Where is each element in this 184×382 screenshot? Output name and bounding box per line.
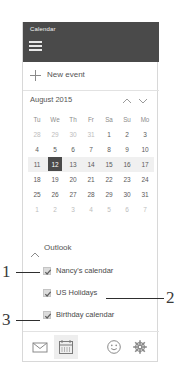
calendar-day-number: 30 <box>123 191 130 198</box>
calendar-day[interactable]: 7 <box>82 142 100 157</box>
calendar-day[interactable]: 14 <box>82 157 100 172</box>
new-event-button[interactable]: New event <box>23 62 159 90</box>
calendar-day-number: 8 <box>107 146 111 153</box>
calendar-day[interactable]: 3 <box>136 127 154 142</box>
calendar-day-number: 21 <box>87 176 94 183</box>
calendar-day-number: 31 <box>141 191 148 198</box>
day-of-week-label: Mo <box>136 112 154 127</box>
outlook-group-label: Outlook <box>44 243 72 252</box>
bottom-toolbar <box>23 331 159 361</box>
title-bar: Calendar <box>23 22 159 62</box>
day-of-week-label: Tu <box>28 112 46 127</box>
annotation-leader-line-3 <box>16 320 40 321</box>
calendar-day[interactable]: 29 <box>46 127 64 142</box>
calendar-day[interactable]: 8 <box>100 142 118 157</box>
calendar-day-number: 11 <box>34 161 41 168</box>
gear-icon[interactable] <box>128 335 152 359</box>
calendar-day[interactable]: 11 <box>28 157 46 172</box>
calendar-day[interactable]: 9 <box>118 142 136 157</box>
calendar-name-label: Nancy's calendar <box>56 266 113 275</box>
smiley-face-icon[interactable] <box>102 335 126 359</box>
calendar-day-number: 20 <box>69 176 76 183</box>
calendar-day[interactable]: 27 <box>64 187 82 202</box>
calendar-day-number: 12 <box>51 161 58 168</box>
chevron-up-icon <box>30 245 40 253</box>
calendar-day[interactable]: 2 <box>118 127 136 142</box>
calendar-day[interactable]: 26 <box>46 187 64 202</box>
calendar-day-number: 5 <box>107 206 111 213</box>
calendar-day[interactable]: 21 <box>82 172 100 187</box>
calendar-day[interactable]: 23 <box>118 172 136 187</box>
calendar-day-number: 27 <box>69 191 76 198</box>
calendar-day-number: 9 <box>125 146 129 153</box>
calendar-list-item[interactable]: US Holidays <box>23 284 159 306</box>
day-of-week-label: Fr <box>82 112 100 127</box>
calendar-day[interactable]: 16 <box>118 157 136 172</box>
calendar-day-selected[interactable]: 12 <box>46 157 64 172</box>
calendar-day-number: 4 <box>35 146 39 153</box>
calendar-day[interactable]: 18 <box>28 172 46 187</box>
calendar-grid: TuWeThFrSaSuMo 2829303112345678910111213… <box>28 112 154 217</box>
calendar-day[interactable]: 5 <box>100 202 118 217</box>
calendar-day[interactable]: 20 <box>64 172 82 187</box>
calendar-week-row: 25262728293031 <box>28 187 154 202</box>
calendar-day[interactable]: 1 <box>100 127 118 142</box>
weeks-container: 2829303112345678910111213141516171819202… <box>28 127 154 217</box>
calendar-day[interactable]: 4 <box>82 202 100 217</box>
hamburger-menu-icon[interactable] <box>29 41 44 54</box>
calendar-day-number: 6 <box>71 146 75 153</box>
day-of-week-label: Su <box>118 112 136 127</box>
calendar-checkbox[interactable] <box>43 311 51 319</box>
calendar-day[interactable]: 4 <box>28 142 46 157</box>
calendar-day[interactable]: 3 <box>64 202 82 217</box>
calendar-week-row: 28293031123 <box>28 127 154 142</box>
chevron-up-icon[interactable] <box>121 96 133 106</box>
hamburger-bar <box>29 49 42 51</box>
calendar-list-item[interactable]: Birthday calendar <box>23 306 159 328</box>
calendar-day[interactable]: 19 <box>46 172 64 187</box>
calendar-day[interactable]: 5 <box>46 142 64 157</box>
calendar-day[interactable]: 25 <box>28 187 46 202</box>
calendar-day[interactable]: 30 <box>64 127 82 142</box>
calendar-day[interactable]: 17 <box>136 157 154 172</box>
calendar-day[interactable]: 1 <box>28 202 46 217</box>
annotation-number-1: 1 <box>2 262 11 282</box>
calendar-day[interactable]: 24 <box>136 172 154 187</box>
calendar-checkbox[interactable] <box>43 267 51 275</box>
calendar-day[interactable]: 31 <box>82 127 100 142</box>
calendar-icon[interactable] <box>54 335 78 359</box>
calendar-checkbox[interactable] <box>43 289 51 297</box>
calendar-day-number: 3 <box>143 131 147 138</box>
outlook-group-header[interactable]: Outlook <box>23 240 159 258</box>
calendar-day[interactable]: 2 <box>46 202 64 217</box>
calendar-day[interactable]: 29 <box>100 187 118 202</box>
calendar-day-number: 18 <box>33 176 40 183</box>
calendar-day[interactable]: 6 <box>64 142 82 157</box>
calendar-day[interactable]: 28 <box>28 127 46 142</box>
calendar-day-number: 28 <box>33 131 40 138</box>
calendar-day-number: 14 <box>87 161 94 168</box>
month-label: August 2015 <box>30 95 72 104</box>
divider <box>23 90 159 91</box>
calendar-day[interactable]: 30 <box>118 187 136 202</box>
calendar-list-item[interactable]: Nancy's calendar <box>23 262 159 284</box>
calendar-day[interactable]: 22 <box>100 172 118 187</box>
mail-icon[interactable] <box>28 335 52 359</box>
calendar-day-number: 28 <box>87 191 94 198</box>
day-of-week-label: Th <box>64 112 82 127</box>
calendar-week-row: 11121314151617 <box>28 157 154 172</box>
calendar-day[interactable]: 7 <box>136 202 154 217</box>
chevron-down-icon[interactable] <box>137 96 149 106</box>
calendar-day[interactable]: 28 <box>82 187 100 202</box>
calendar-day-number: 16 <box>123 161 130 168</box>
calendar-day[interactable]: 6 <box>118 202 136 217</box>
calendar-day[interactable]: 31 <box>136 187 154 202</box>
calendar-day-number: 29 <box>51 131 58 138</box>
calendar-day-number: 29 <box>105 191 112 198</box>
calendar-day-number: 22 <box>105 176 112 183</box>
calendar-day[interactable]: 10 <box>136 142 154 157</box>
calendar-day[interactable]: 15 <box>100 157 118 172</box>
calendar-day-number: 13 <box>69 161 76 168</box>
calendar-day[interactable]: 13 <box>64 157 82 172</box>
calendar-day-number: 4 <box>89 206 93 213</box>
